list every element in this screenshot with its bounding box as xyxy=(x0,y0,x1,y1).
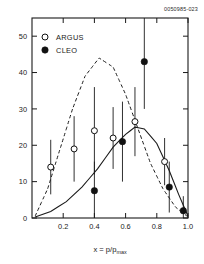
legend-layer: ARGUSCLEO xyxy=(42,33,84,55)
axis-labels-layer: 0.20.40.60.81.001020304050x = p/pmax xyxy=(19,32,193,255)
x-tick-label: 0.2 xyxy=(58,222,68,231)
x-tick-label: 0.6 xyxy=(120,222,130,231)
data-point-argus xyxy=(48,164,54,170)
data-point-argus xyxy=(91,128,97,134)
data-point-argus xyxy=(132,119,138,125)
plot-canvas: 0.20.40.60.81.001020304050x = p/pmax ARG… xyxy=(0,0,204,264)
x-axis-title: x = p/pmax xyxy=(93,245,127,255)
y-tick-label: 0 xyxy=(23,214,27,223)
x-tick-label: 1.0 xyxy=(183,222,193,231)
data-point-argus xyxy=(71,146,77,152)
data-point-argus xyxy=(162,159,168,165)
data-point-cleo xyxy=(166,184,172,190)
y-tick-label: 20 xyxy=(19,141,27,150)
legend-marker-argus xyxy=(42,34,48,40)
data-points-layer xyxy=(48,58,187,213)
data-point-argus xyxy=(110,135,116,141)
data-point-cleo xyxy=(119,138,125,144)
physics-scatter-figure: 0050985-023 0.20.40.60.81.001020304050x … xyxy=(0,0,204,264)
y-tick-label: 10 xyxy=(19,177,27,186)
y-tick-label: 30 xyxy=(19,105,27,114)
legend-label-cleo: CLEO xyxy=(56,46,77,55)
data-point-cleo xyxy=(141,58,147,64)
y-tick-label: 50 xyxy=(19,32,27,41)
data-point-cleo xyxy=(91,188,97,194)
x-tick-label: 0.8 xyxy=(152,222,162,231)
legend-label-argus: ARGUS xyxy=(56,33,84,42)
y-tick-label: 40 xyxy=(19,68,27,77)
data-point-cleo xyxy=(180,208,186,214)
x-tick-label: 0.4 xyxy=(89,222,99,231)
legend-marker-cleo xyxy=(42,47,48,53)
